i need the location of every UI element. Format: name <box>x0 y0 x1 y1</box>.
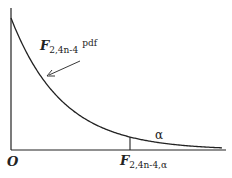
critical-value-subscript: 2,4n-4,α <box>129 160 167 170</box>
curve-label-subscript: 2,4n-4 <box>49 45 78 55</box>
tail-area-label: α <box>155 128 163 142</box>
curve-label-suffix: pdf <box>82 38 97 48</box>
critical-value-symbol: F <box>120 153 129 168</box>
curve-label-symbol: F <box>40 38 49 53</box>
arrow-shaft <box>49 61 80 75</box>
curve-label: F2,4n-4 pdf <box>40 38 97 53</box>
origin-label: O <box>7 154 18 169</box>
critical-value-label: F2,4n-4,α <box>120 153 167 168</box>
pdf-diagram <box>0 0 232 178</box>
